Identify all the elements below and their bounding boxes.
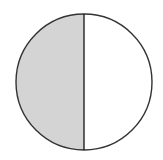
diagram-stage	[0, 0, 163, 160]
fraction-circle-diagram	[0, 0, 163, 160]
shaded-left-half	[16, 14, 84, 150]
unshaded-right-half	[84, 14, 152, 150]
